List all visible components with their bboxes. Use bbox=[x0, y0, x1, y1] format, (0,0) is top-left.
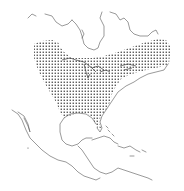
caribbean-islands bbox=[92, 126, 146, 156]
coastline-mexico-west bbox=[12, 110, 100, 180]
coastline-central-america bbox=[78, 146, 152, 180]
range-map bbox=[0, 0, 184, 191]
island-dot bbox=[27, 147, 28, 148]
coastline-gulf bbox=[60, 113, 96, 146]
